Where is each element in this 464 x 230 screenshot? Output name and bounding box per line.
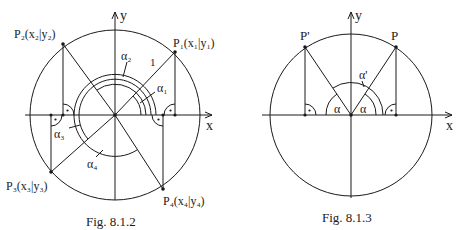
- radius-p4: [115, 115, 163, 189]
- x-axis-label: x: [446, 118, 453, 133]
- radius-p2: [63, 44, 115, 115]
- right-angle-p3: [51, 115, 62, 126]
- arc-alpha1: [133, 96, 141, 115]
- label-p4: P₄(x₄|y₄): [163, 194, 205, 208]
- label-alpha2: α₂: [121, 49, 131, 63]
- arc-alpha-right: [365, 94, 376, 115]
- caption-fig-8-1-3: Fig. 8.1.3: [322, 210, 372, 225]
- figure-8-1-3: y x P P' α α α' Fig. 8.1.3: [262, 8, 453, 225]
- right-angle-p1: [164, 104, 175, 115]
- point-p3: [49, 170, 53, 174]
- diagram-canvas: y x 1 P₁(x₁|y₁) P₂(x₂|y₂) P₃(x₃|y₃) P₄(x…: [0, 0, 464, 230]
- x-axis-label: x: [206, 118, 213, 133]
- radius-p: [351, 47, 396, 115]
- figure-8-1-2: y x 1 P₁(x₁|y₁) P₂(x₂|y₂) P₃(x₃|y₃) P₄(x…: [6, 8, 215, 229]
- right-angle-p2: [63, 104, 74, 115]
- radius-label: 1: [150, 56, 156, 68]
- radius-p3: [51, 115, 115, 172]
- right-angle-p4: [152, 115, 163, 126]
- y-axis-label: y: [355, 8, 362, 23]
- label-p: P: [391, 28, 398, 43]
- caption-fig-8-1-2: Fig. 8.1.2: [86, 214, 136, 229]
- label-alpha-prime: α': [359, 68, 367, 82]
- label-alpha3: α₃: [54, 127, 64, 141]
- y-axis-label: y: [120, 8, 127, 23]
- leader-alpha1: [140, 92, 155, 103]
- leader-alpha3: [69, 125, 80, 128]
- label-p1: P₁(x₁|y₁): [173, 36, 215, 50]
- label-p3: P₃(x₃|y₃): [6, 179, 48, 193]
- leader-alpha4: [96, 150, 103, 157]
- label-alpha-left: α: [334, 102, 341, 116]
- label-p-prime: P': [300, 28, 310, 43]
- right-angle-p-prime: [305, 104, 316, 115]
- point-p2: [61, 42, 65, 46]
- right-angle-p: [385, 104, 396, 115]
- point-p4: [161, 187, 165, 191]
- label-alpha1: α₁: [157, 81, 167, 95]
- point-p-prime: [303, 45, 307, 49]
- point-p1: [173, 50, 177, 54]
- leader-alpha2: [123, 62, 127, 77]
- point-p: [394, 45, 398, 49]
- label-alpha-right: α: [360, 102, 367, 116]
- label-p2: P₂(x₂|y₂): [14, 27, 56, 41]
- label-alpha4: α₄: [87, 157, 97, 171]
